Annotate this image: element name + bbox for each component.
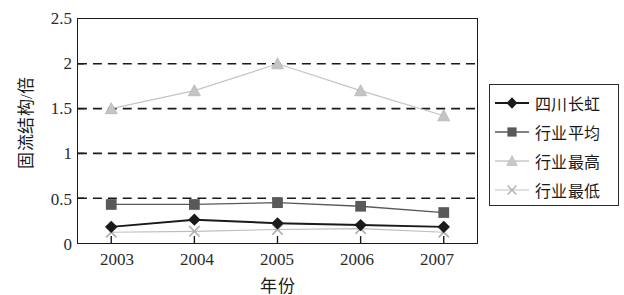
legend-item-0[interactable]: 四川长虹	[490, 88, 618, 117]
y-tick-label: 0.5	[32, 191, 72, 208]
x-tick-label-2006: 2006	[322, 250, 392, 270]
plot-area	[77, 18, 478, 244]
y-tick-label: 0	[32, 236, 72, 253]
legend-marker-triangle-icon	[494, 152, 530, 170]
y-tick-label: 1.5	[32, 100, 72, 117]
legend-label: 四川长虹	[535, 91, 600, 115]
y-tick-label: 2.5	[32, 10, 72, 27]
legend-marker-diamond-icon	[494, 94, 530, 112]
y-tick-label: 2	[32, 55, 72, 72]
series-2	[105, 58, 449, 121]
x-tick-label-2007: 2007	[402, 250, 472, 270]
y-axis-ticks	[78, 64, 84, 198]
legend-marker-square-icon	[494, 123, 530, 141]
x-axis-title: 年份	[77, 272, 478, 295]
gridlines	[78, 64, 477, 198]
legend-item-2[interactable]: 行业最高	[490, 146, 618, 175]
legend-label: 行业平均	[535, 120, 600, 144]
y-axis-tick-labels: 2.5 2 1.5 1 0.5 0	[28, 0, 72, 295]
legend-item-3[interactable]: 行业最低	[490, 175, 618, 204]
y-tick-label: 1	[32, 145, 72, 162]
legend-label: 行业最低	[535, 178, 600, 202]
plot-svg	[78, 19, 477, 243]
x-tick-label-2004: 2004	[162, 250, 232, 270]
x-axis-ticks	[111, 236, 444, 243]
legend: 四川长虹 行业平均 行业最高 行业最低	[489, 84, 619, 206]
legend-label: 行业最高	[535, 149, 600, 173]
legend-item-1[interactable]: 行业平均	[490, 117, 618, 146]
data-series-layer	[105, 58, 450, 238]
chart-container: 固流结构/倍 2.5 2 1.5 1 0.5 0 2003 2004 2005 …	[0, 0, 624, 295]
x-tick-label-2003: 2003	[82, 250, 152, 270]
legend-marker-x-icon	[494, 181, 530, 199]
series-1	[106, 197, 449, 218]
x-tick-label-2005: 2005	[242, 250, 312, 270]
